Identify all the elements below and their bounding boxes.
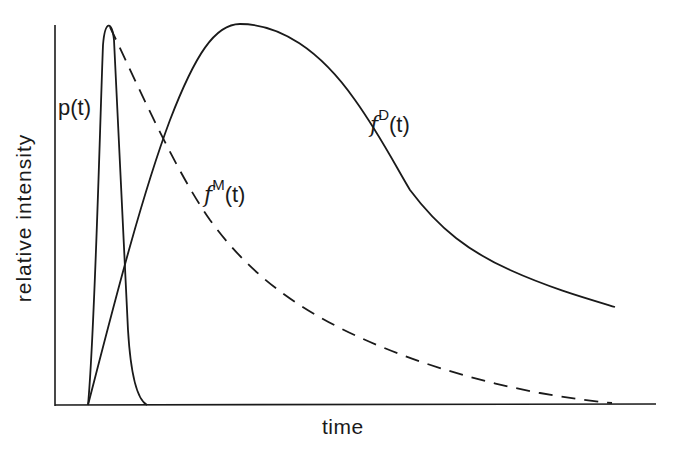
label-fD-fn: f: [370, 112, 378, 137]
label-fD-t: fD(t): [370, 112, 410, 138]
label-p-t: p(t): [58, 95, 91, 121]
label-fM-sup: M: [212, 176, 225, 193]
chart-plot-area: [0, 0, 675, 457]
y-axis-label: relative intensity: [12, 134, 36, 303]
x-axis-label: time: [322, 415, 364, 439]
label-fD-sup: D: [378, 106, 389, 123]
label-fM-t: fM(t): [204, 182, 245, 208]
curve-fD-t: [88, 24, 615, 405]
label-fD-arg: (t): [389, 112, 410, 137]
label-fM-arg: (t): [225, 182, 246, 207]
label-fM-fn: f: [204, 182, 212, 207]
label-p-t-text: p(t): [58, 95, 91, 120]
